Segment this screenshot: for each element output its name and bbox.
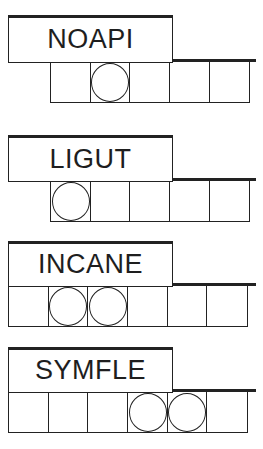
answer-cell[interactable]	[169, 61, 210, 103]
answer-cell[interactable]	[48, 391, 89, 433]
answer-cell[interactable]	[87, 285, 128, 327]
answer-cells	[50, 180, 250, 222]
answer-cell[interactable]	[209, 180, 250, 222]
answer-cell[interactable]	[127, 391, 168, 433]
circle-marker-icon	[49, 287, 87, 326]
answer-cell[interactable]	[206, 391, 247, 433]
circle-marker-icon	[91, 63, 129, 102]
answer-cell[interactable]	[87, 391, 128, 433]
scrambled-word: LIGUT	[8, 135, 173, 182]
answer-cell[interactable]	[48, 285, 89, 327]
answer-cell[interactable]	[167, 285, 208, 327]
answer-cell[interactable]	[8, 391, 49, 433]
circle-marker-icon	[129, 393, 167, 432]
answer-cell[interactable]	[169, 180, 210, 222]
answer-cell[interactable]	[90, 180, 131, 222]
answer-cell[interactable]	[90, 61, 131, 103]
answer-cell[interactable]	[129, 180, 170, 222]
answer-row-top-rule	[172, 178, 256, 181]
answer-row-top-rule	[172, 389, 256, 392]
answer-cell[interactable]	[167, 391, 208, 433]
answer-cell[interactable]	[209, 61, 250, 103]
answer-cell[interactable]	[50, 180, 91, 222]
answer-cell[interactable]	[127, 285, 168, 327]
circle-marker-icon	[52, 182, 90, 221]
answer-row-top-rule	[172, 59, 256, 62]
answer-cells	[8, 285, 248, 327]
scrambled-word: SYMFLE	[8, 347, 173, 393]
answer-cell[interactable]	[50, 61, 91, 103]
answer-row-top-rule	[172, 283, 256, 286]
answer-cell[interactable]	[8, 285, 49, 327]
scrambled-word: NOAPI	[8, 15, 173, 63]
answer-cells	[8, 391, 248, 433]
answer-cells	[50, 61, 250, 103]
answer-cell[interactable]	[206, 285, 247, 327]
circle-marker-icon	[168, 393, 206, 432]
scrambled-word: INCANE	[8, 241, 173, 287]
answer-cell[interactable]	[129, 61, 170, 103]
circle-marker-icon	[89, 287, 127, 326]
